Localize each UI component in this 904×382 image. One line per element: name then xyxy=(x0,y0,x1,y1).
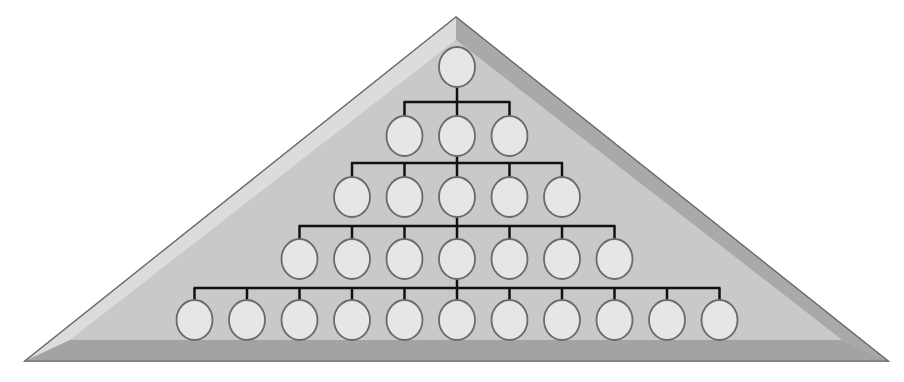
node-level-2-3 xyxy=(492,116,528,156)
node-level-5-8 xyxy=(544,300,580,340)
node-level-3-5 xyxy=(544,177,580,217)
node-level-4-5 xyxy=(492,239,528,279)
node-level-4-2 xyxy=(334,239,370,279)
node-level-5-3 xyxy=(282,300,318,340)
node-level-2-2 xyxy=(439,116,475,156)
node-level-4-7 xyxy=(597,239,633,279)
node-level-3-2 xyxy=(387,177,423,217)
node-level-3-4 xyxy=(492,177,528,217)
node-level-3-1 xyxy=(334,177,370,217)
node-level-5-1 xyxy=(177,300,213,340)
node-level-4-3 xyxy=(387,239,423,279)
pyramid-svg xyxy=(0,0,904,382)
node-level-5-10 xyxy=(649,300,685,340)
node-level-5-4 xyxy=(334,300,370,340)
node-level-4-4 xyxy=(439,239,475,279)
node-level-2-1 xyxy=(387,116,423,156)
node-level-5-11 xyxy=(702,300,738,340)
node-level-4-1 xyxy=(282,239,318,279)
node-level-5-5 xyxy=(387,300,423,340)
node-level-3-3 xyxy=(439,177,475,217)
node-level-5-7 xyxy=(492,300,528,340)
node-level-5-2 xyxy=(229,300,265,340)
node-level-5-6 xyxy=(439,300,475,340)
node-level-5-9 xyxy=(597,300,633,340)
node-level-4-6 xyxy=(544,239,580,279)
pyramid-bevel-bottom xyxy=(25,340,888,361)
pyramid-hierarchy-diagram xyxy=(0,0,904,382)
node-level-1-1 xyxy=(439,47,475,87)
